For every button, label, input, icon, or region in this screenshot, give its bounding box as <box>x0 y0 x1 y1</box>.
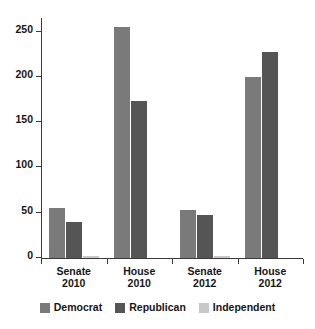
legend-swatch-icon <box>115 303 125 313</box>
x-axis-label: House2010 <box>107 265 173 289</box>
bar-democrat[interactable] <box>180 210 196 258</box>
y-tick-label: 0 <box>27 250 33 261</box>
bar-democrat[interactable] <box>49 208 65 258</box>
bar-republican[interactable] <box>66 222 82 258</box>
x-axis-label-line: 2012 <box>238 277 304 289</box>
y-axis-line <box>41 18 42 259</box>
legend-item-label: Independent <box>213 302 275 313</box>
bar-republican[interactable] <box>131 101 147 258</box>
x-axis-label-line: Senate <box>41 265 107 277</box>
y-tick-label: 100 <box>15 159 33 170</box>
x-tick-mark <box>172 259 173 264</box>
y-tick-label: 200 <box>15 69 33 80</box>
legend-item-label: Democrat <box>54 302 102 313</box>
bar-group <box>180 18 230 258</box>
legend-swatch-icon <box>40 303 50 313</box>
x-tick-mark <box>41 259 42 264</box>
bar-group <box>114 18 164 258</box>
bar-independent[interactable] <box>83 256 99 258</box>
x-tick-mark <box>303 259 304 264</box>
y-tick-mark <box>36 212 41 213</box>
bar-group-bars <box>180 18 230 258</box>
x-axis-label-line: House <box>107 265 173 277</box>
legend-item-republican[interactable]: Republican <box>115 302 186 313</box>
x-axis-label-line: 2012 <box>172 277 238 289</box>
chart-legend: DemocratRepublicanIndependent <box>0 302 315 313</box>
bar-group <box>245 18 295 258</box>
y-tick-label: 150 <box>15 114 33 125</box>
bar-group-bars <box>49 18 99 258</box>
x-axis-label: Senate2010 <box>41 265 107 289</box>
y-tick-mark <box>36 166 41 167</box>
bar-republican[interactable] <box>197 215 213 258</box>
bar-group <box>49 18 99 258</box>
bar-democrat[interactable] <box>114 27 130 258</box>
x-tick-mark <box>107 259 108 264</box>
y-tick-mark <box>36 257 41 258</box>
x-axis-label: House2012 <box>238 265 304 289</box>
legend-item-democrat[interactable]: Democrat <box>40 302 102 313</box>
legend-swatch-icon <box>199 303 209 313</box>
y-tick-mark <box>36 76 41 77</box>
x-axis-label: Senate2012 <box>172 265 238 289</box>
y-tick-mark <box>36 31 41 32</box>
x-axis-label-line: House <box>238 265 304 277</box>
x-axis-label-line: Senate <box>172 265 238 277</box>
legend-item-independent[interactable]: Independent <box>199 302 275 313</box>
bar-democrat[interactable] <box>245 77 261 258</box>
legend-item-label: Republican <box>129 302 186 313</box>
x-tick-mark <box>238 259 239 264</box>
y-tick-label: 50 <box>21 205 33 216</box>
x-axis-label-line: 2010 <box>41 277 107 289</box>
y-tick-mark <box>36 121 41 122</box>
y-tick-label: 250 <box>15 24 33 35</box>
bar-republican[interactable] <box>262 52 278 258</box>
bar-group-bars <box>114 18 164 258</box>
bar-group-bars <box>245 18 295 258</box>
bar-independent[interactable] <box>214 256 230 258</box>
x-axis-label-line: 2010 <box>107 277 173 289</box>
bar-chart: 050100150200250 Senate2010House2010Senat… <box>0 0 315 329</box>
